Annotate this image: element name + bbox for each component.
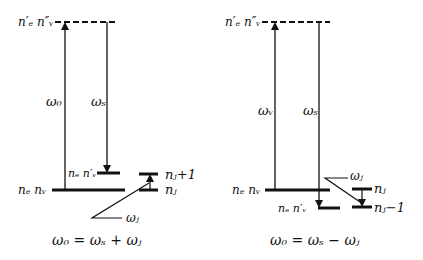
raman-energy-level-diagram: n′ₑ n″ᵥ ω₀ ωₛ nₑ nᵥ nₑ n′ᵥ nⱼ+1 nⱼ ωⱼ ω₀… xyxy=(0,0,423,260)
intermediate-level-label: nₑ n′ᵥ xyxy=(278,202,307,215)
phonon-freq-label: ωⱼ xyxy=(350,169,364,183)
phonon-freq-label: ωⱼ xyxy=(126,211,140,225)
stokes-label: ωₛ xyxy=(91,94,106,109)
energy-equation: ω₀ = ωₛ + ωⱼ xyxy=(52,232,142,248)
ground-level-label: nₑ nᵥ xyxy=(232,183,260,197)
pump-label: ω₀ xyxy=(46,94,63,109)
phonon-pointer-line xyxy=(92,183,149,218)
phonon-lower-label: nⱼ−1 xyxy=(374,200,405,215)
energy-equation: ω₀ = ωₛ − ωⱼ xyxy=(270,232,360,248)
pump-label: ωᵥ xyxy=(258,103,274,118)
virtual-level-label: n′ₑ n″ᵥ xyxy=(225,15,261,29)
virtual-level-label: n′ₑ n″ᵥ xyxy=(18,15,54,29)
phonon-upper-label: nⱼ+1 xyxy=(165,167,196,182)
phonon-lower-label: nⱼ xyxy=(165,182,177,197)
ground-level-label: nₑ nᵥ xyxy=(18,183,46,197)
stokes-label: ωₛ xyxy=(303,103,318,118)
intermediate-level-label: nₑ n′ᵥ xyxy=(68,167,97,180)
phonon-upper-label: nⱼ xyxy=(374,181,386,196)
left-panel: n′ₑ n″ᵥ ω₀ ωₛ nₑ nᵥ nₑ n′ᵥ nⱼ+1 nⱼ ωⱼ ω₀… xyxy=(18,15,196,248)
right-panel: n′ₑ n″ᵥ ωᵥ ωₛ nₑ nᵥ nₑ n′ᵥ nⱼ nⱼ−1 ωⱼ ω₀… xyxy=(225,15,405,248)
